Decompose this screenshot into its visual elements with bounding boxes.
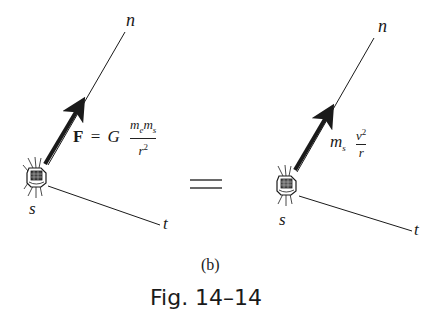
left-s-label: s <box>29 199 36 219</box>
velocity-exponent: 2 <box>362 127 367 137</box>
centripetal-force-formula: ms v2 r <box>330 125 366 160</box>
mass-subscript: s <box>342 143 346 153</box>
fraction-denominator: r2 <box>130 140 156 158</box>
diagram-canvas <box>0 0 431 324</box>
left-t-axis <box>48 186 160 225</box>
gravitational-force-formula: F = G mems r2 <box>73 118 156 158</box>
fraction-numerator: mems <box>130 118 156 137</box>
mass-satellite: m <box>143 117 152 132</box>
equation-equals: = <box>91 127 101 146</box>
force-symbol: F <box>73 127 83 146</box>
left-satellite-icon <box>23 157 46 198</box>
right-t-axis <box>299 196 412 231</box>
mass-satellite-subscript: s <box>153 125 157 135</box>
radius-exponent: 2 <box>143 142 148 152</box>
equals-sign <box>190 180 222 188</box>
right-t-label: t <box>414 220 419 240</box>
right-s-label: s <box>279 210 286 230</box>
left-t-label: t <box>163 214 168 234</box>
panel-label: (b) <box>201 256 220 274</box>
mass-satellite-symbol: m <box>330 132 342 151</box>
left-n-label: n <box>126 10 135 31</box>
fraction-bar <box>130 138 156 139</box>
figure-caption: Fig. 14–14 <box>150 285 262 310</box>
fraction-numerator: v2 <box>356 125 366 143</box>
mass-earth: m <box>130 117 139 132</box>
gravitational-constant: G <box>107 127 119 146</box>
velocity-over-radius-fraction: v2 r <box>356 125 366 160</box>
right-n-label: n <box>378 16 387 37</box>
right-ma-arrow <box>295 114 328 170</box>
fraction-denominator: r <box>356 146 366 160</box>
right-satellite-icon <box>277 165 296 206</box>
mass-over-radius-fraction: mems r2 <box>130 118 156 158</box>
